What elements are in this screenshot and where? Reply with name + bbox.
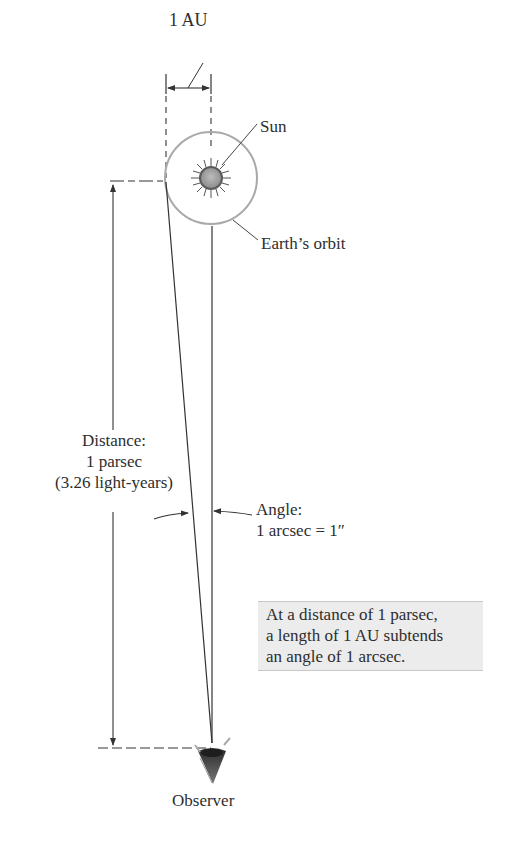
sun-icon (191, 158, 231, 198)
orbit-leader-line (233, 220, 258, 240)
au-label: 1 AU (169, 10, 208, 31)
orbit-label: Earth’s orbit (261, 233, 346, 254)
eye-icon (195, 738, 230, 784)
sun-label: Sun (260, 116, 286, 137)
angle-arrow-left (154, 513, 188, 519)
au-dimension (166, 63, 211, 94)
note-line-2: a length of 1 AU subtends (266, 625, 483, 646)
observer-label: Observer (172, 790, 234, 811)
note-line-1: At a distance of 1 parsec, (266, 604, 483, 625)
distance-label-line-1: Distance: (44, 430, 184, 451)
angle-label-line-2: 1 arcsec = 1″ (256, 520, 345, 541)
angle-label: Angle: 1 arcsec = 1″ (256, 499, 345, 541)
distance-label-line-3: (3.26 light-years) (44, 472, 184, 493)
distance-label-line-2: 1 parsec (44, 451, 184, 472)
distance-label: Distance: 1 parsec (3.26 light-years) (44, 430, 184, 493)
angle-arrow-right (214, 511, 252, 515)
caption-note-box: At a distance of 1 parsec, a length of 1… (258, 601, 483, 671)
note-line-3: an angle of 1 arcsec. (266, 646, 483, 667)
angle-label-line-1: Angle: (256, 499, 345, 520)
